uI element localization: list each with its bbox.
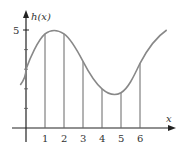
x-tick-label-2: 2 xyxy=(61,133,67,144)
y-axis-arrow-icon xyxy=(23,10,29,18)
x-tick-label-1: 1 xyxy=(42,133,48,144)
x-tick-label-3: 3 xyxy=(80,133,86,144)
y-tick-label-5: 5 xyxy=(13,25,19,36)
x-tick-label-5: 5 xyxy=(118,133,124,144)
vertical-segments xyxy=(45,34,140,128)
chart: h(x) 5 x 1 2 3 4 5 6 xyxy=(0,0,187,152)
y-axis-label: h(x) xyxy=(31,11,51,22)
x-axis-arrow-icon xyxy=(168,125,176,131)
x-axis-label: x xyxy=(166,113,172,124)
h-curve xyxy=(20,30,166,94)
x-tick-label-6: 6 xyxy=(137,133,143,144)
x-tick-label-4: 4 xyxy=(99,133,105,144)
